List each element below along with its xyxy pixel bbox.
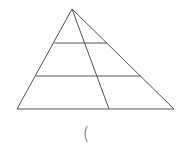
caption-parenthesis: ( <box>80 124 92 144</box>
apex-to-base-line <box>72 9 109 109</box>
triangle-diagram <box>0 0 185 152</box>
outer-triangle <box>17 9 174 109</box>
